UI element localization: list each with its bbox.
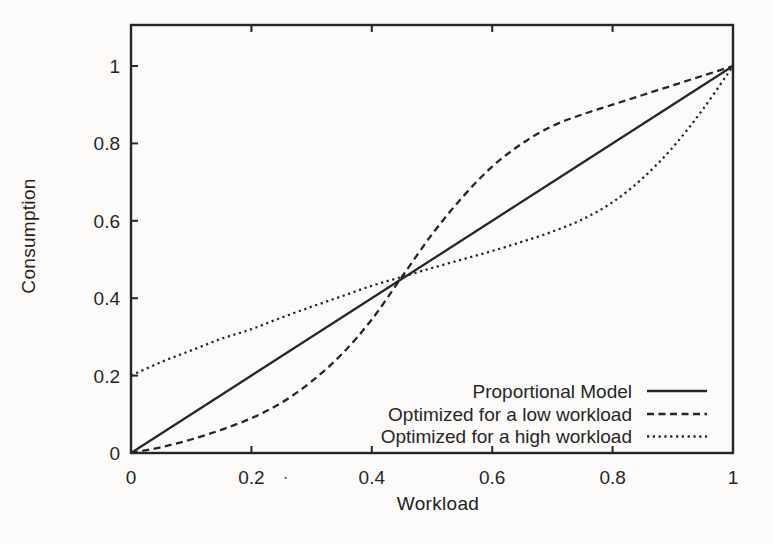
- y-tick-label: 0.4: [94, 288, 121, 309]
- y-tick-label: 0.8: [94, 133, 120, 154]
- y-tick-label: 1: [109, 56, 120, 77]
- plot-border: [131, 25, 733, 453]
- x-tick-label: 0.8: [599, 467, 625, 488]
- scan-artifact-dot: .: [283, 462, 288, 484]
- legend-label-optimized-for-a-low-workload: Optimized for a low workload: [388, 404, 632, 425]
- legend-label-proportional-model: Proportional Model: [473, 381, 632, 402]
- y-tick-label: 0: [109, 443, 120, 464]
- x-tick-label: 0.2: [238, 467, 264, 488]
- x-tick-label: 0.6: [479, 467, 505, 488]
- line-chart: 00.20.40.60.8100.20.40.60.81Proportional…: [0, 0, 773, 544]
- y-axis-title: Consumption: [18, 178, 40, 293]
- series-line-optimized-for-a-high-workload: [131, 66, 733, 376]
- y-tick-label: 0.2: [94, 366, 120, 387]
- x-tick-label: 0: [126, 467, 137, 488]
- x-axis-title: Workload: [397, 493, 479, 515]
- x-tick-label: 0.4: [359, 467, 386, 488]
- series-line-proportional-model: [131, 66, 733, 453]
- x-tick-label: 1: [728, 467, 739, 488]
- legend-label-optimized-for-a-high-workload: Optimized for a high workload: [381, 426, 632, 447]
- y-tick-label: 0.6: [94, 211, 120, 232]
- scanned-line-chart-figure: 00.20.40.60.8100.20.40.60.81Proportional…: [0, 0, 773, 544]
